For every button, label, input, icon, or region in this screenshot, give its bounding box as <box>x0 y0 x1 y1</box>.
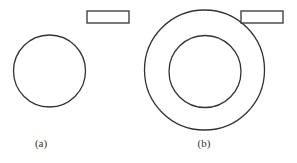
panel-a-rectangle <box>87 11 129 23</box>
panel-a-circle <box>14 35 86 107</box>
panel-b-outer-circle <box>145 10 265 130</box>
panel-b-inner-circle <box>169 36 241 108</box>
panel-b-label: (b) <box>198 137 211 150</box>
panel-b-rectangle <box>241 11 283 23</box>
diagram-canvas: (a) (b) <box>0 0 297 163</box>
panel-b: (b) <box>145 10 284 150</box>
panel-a: (a) <box>14 11 130 150</box>
panel-a-label: (a) <box>35 137 48 150</box>
